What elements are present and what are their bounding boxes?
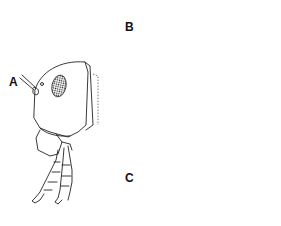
panel-label-a: A: [9, 76, 18, 88]
figure-drawing: [0, 0, 281, 226]
panel-label-c: C: [125, 172, 134, 184]
compound-eye-a: [50, 74, 68, 98]
panel-label-b: B: [125, 21, 134, 33]
panel-a-drawing: [20, 62, 98, 204]
